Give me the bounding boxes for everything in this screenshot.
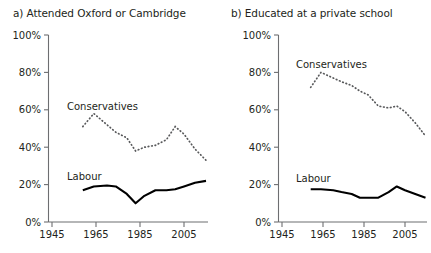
y-tick-label-100: 100%: [242, 30, 271, 41]
panel-b-series-conservatives: [311, 72, 426, 136]
panel-b-label-conservatives: Conservatives: [296, 59, 367, 70]
panel-a-series-conservatives: [83, 114, 206, 161]
y-tick-label-0: 0%: [255, 217, 271, 228]
y-tick-label-40: 40%: [19, 142, 41, 153]
y-tick-label-100: 100%: [12, 30, 41, 41]
figure-root: a) Attended Oxford or Cambridge 100% 80%…: [0, 0, 431, 253]
panel-a-series-labour: [83, 181, 206, 203]
chart-panel-b: b) Educated at a private school 100% 80%…: [215, 0, 431, 253]
panel-a-svg: 100% 80% 60% 40% 20% 0% 1945 1965 1985: [0, 0, 215, 253]
panel-a-label-labour: Labour: [67, 171, 103, 182]
y-tick-label-0: 0%: [25, 217, 41, 228]
y-tick-label-20: 20%: [19, 179, 41, 190]
chart-panel-a: a) Attended Oxford or Cambridge 100% 80%…: [0, 0, 215, 253]
x-tick-label-1985: 1985: [351, 229, 376, 240]
x-tick-label-2005: 2005: [171, 229, 196, 240]
y-tick-label-60: 60%: [249, 104, 271, 115]
x-tick-label-2005: 2005: [392, 229, 417, 240]
y-tick-label-60: 60%: [19, 104, 41, 115]
panel-a-label-conservatives: Conservatives: [67, 101, 138, 112]
panel-b-series-labour: [311, 186, 426, 197]
panel-a-x-axis: 1945 1965 1985 2005: [39, 222, 208, 240]
x-tick-label-1945: 1945: [269, 229, 294, 240]
x-tick-label-1965: 1965: [83, 229, 108, 240]
y-tick-label-80: 80%: [249, 67, 271, 78]
panel-a-y-axis: 100% 80% 60% 40% 20% 0%: [12, 30, 48, 228]
panel-a-plot: 100% 80% 60% 40% 20% 0% 1945 1965 1985: [0, 0, 215, 253]
panel-b-plot: 100% 80% 60% 40% 20% 0% 1945 1965 1985: [215, 0, 431, 253]
y-tick-label-20: 20%: [249, 179, 271, 190]
y-tick-label-40: 40%: [249, 142, 271, 153]
x-tick-label-1985: 1985: [127, 229, 152, 240]
y-tick-label-80: 80%: [19, 67, 41, 78]
panel-b-svg: 100% 80% 60% 40% 20% 0% 1945 1965 1985: [215, 0, 431, 253]
x-tick-label-1965: 1965: [310, 229, 335, 240]
x-tick-label-1945: 1945: [39, 229, 64, 240]
panel-b-y-axis: 100% 80% 60% 40% 20% 0%: [242, 30, 278, 228]
panel-b-x-axis: 1945 1965 1985 2005: [269, 222, 427, 240]
panel-b-label-labour: Labour: [296, 173, 332, 184]
